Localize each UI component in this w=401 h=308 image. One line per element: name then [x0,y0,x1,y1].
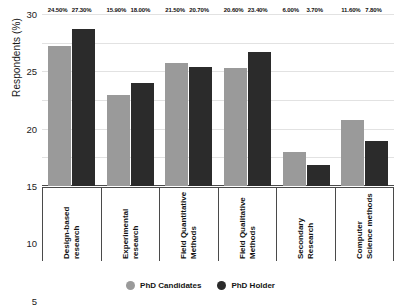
plot-area: 302520151050 24.50%27.30%15.90%18.00%21.… [42,14,394,186]
bar[interactable]: 15.90% [107,95,130,186]
legend-item[interactable]: PhD Candidates [126,281,201,290]
bar-value-label: 24.50% [48,7,68,13]
bar-group: 20.60%23.40% [218,14,277,186]
legend-label: PhD Holder [231,281,275,290]
bar-group: 24.50%27.30% [42,14,101,186]
category-cell: Experimental research [101,188,160,261]
legend-swatch-icon [126,281,135,290]
bar-column: 24.50% [48,14,71,186]
bar-group: 21.50%20.70% [159,14,218,186]
category-cell: Field Qualitative Methods [218,188,277,261]
y-tick-label: 10 [26,238,37,249]
bar-group: 15.90%18.00% [101,14,160,186]
bar-column: 20.70% [189,14,212,186]
y-tick-label: 25 [26,66,37,77]
bar-column: 27.30% [72,14,95,186]
legend-swatch-icon [217,281,226,290]
bar[interactable]: 6.00% [283,152,306,186]
bar-value-label: 6.00% [283,7,300,13]
category-axis: Design-based researchExperimental resear… [42,187,394,261]
bar-group: 11.60%7.80% [335,14,394,186]
bar-column: 21.50% [165,14,188,186]
bar-column: 3.70% [307,14,330,186]
bar-column: 6.00% [283,14,306,186]
category-label: Field Qualitative Methods [238,189,257,259]
bar-value-label: 20.70% [189,7,209,13]
category-cell: Design-based research [42,188,101,261]
bar-value-label: 3.70% [307,7,324,13]
bar-chart: Respondents (%) 302520151050 24.50%27.30… [0,0,401,308]
bar[interactable]: 20.70% [189,67,212,186]
category-label: Secondary Research [296,189,315,259]
bar[interactable]: 23.40% [248,52,271,186]
category-label: Experimental research [121,189,140,259]
y-tick-label: 15 [26,181,37,192]
bar-column: 15.90% [107,14,130,186]
category-cell: Field Quantitative Methods [159,188,218,261]
bar-value-label: 21.50% [165,7,185,13]
bar-value-label: 18.00% [131,7,151,13]
category-cell: Computer Science methods [335,188,395,261]
category-label: Computer Science methods [355,189,374,259]
y-tick-label: 5 [32,295,37,306]
chart-legend: PhD CandidatesPhD Holder [0,281,401,290]
bar[interactable]: 24.50% [48,46,71,186]
bar-value-label: 23.40% [248,7,268,13]
bar[interactable]: 27.30% [72,29,95,186]
y-tick-label: 30 [26,9,37,20]
bar[interactable]: 20.60% [224,68,247,186]
bar-value-label: 11.60% [341,7,360,13]
y-axis-title: Respondents (%) [11,0,22,118]
bar-column: 7.80% [365,14,388,186]
bar[interactable]: 18.00% [131,83,154,186]
bar[interactable]: 11.60% [341,120,364,187]
category-cell: Secondary Research [276,188,335,261]
bar-column: 20.60% [224,14,247,186]
category-label: Design-based research [62,189,81,259]
bar[interactable]: 21.50% [165,63,188,186]
bar-groups: 24.50%27.30%15.90%18.00%21.50%20.70%20.6… [42,14,394,186]
bar[interactable]: 3.70% [307,165,330,186]
bar-value-label: 27.30% [72,7,92,13]
y-tick-label: 20 [26,123,37,134]
bar-column: 18.00% [131,14,154,186]
bar-column: 23.40% [248,14,271,186]
bar-value-label: 20.60% [224,7,244,13]
bar-value-label: 15.90% [107,7,127,13]
category-label: Field Quantitative Methods [179,189,198,259]
bar-column: 11.60% [341,14,364,186]
bar-value-label: 7.80% [365,7,382,13]
legend-item[interactable]: PhD Holder [217,281,275,290]
bar[interactable]: 7.80% [365,141,388,186]
bar-group: 6.00%3.70% [277,14,336,186]
legend-label: PhD Candidates [140,281,201,290]
